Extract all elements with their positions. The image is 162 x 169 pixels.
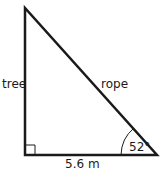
- tree-label: tree: [2, 78, 26, 90]
- base-label: 5.6 m: [65, 158, 100, 169]
- rope-label: rope: [101, 78, 128, 90]
- angle-label: 52°: [129, 141, 150, 153]
- triangle: [25, 8, 157, 155]
- right-angle-marker: [25, 145, 35, 155]
